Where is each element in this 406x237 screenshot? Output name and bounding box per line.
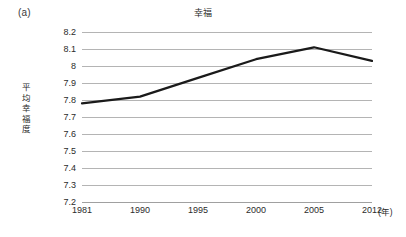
x-tick-label: 2000	[246, 205, 266, 215]
x-tick-label: 1995	[188, 205, 208, 215]
chart-title: 幸福	[0, 6, 406, 19]
y-tick-label: 7.9	[30, 78, 76, 88]
y-tick-label: 7.8	[30, 95, 76, 105]
plot-area	[82, 32, 372, 202]
y-tick-label: 7.6	[30, 129, 76, 139]
y-tick-label: 7.2	[30, 197, 76, 207]
y-tick-label: 8.1	[30, 44, 76, 54]
x-tick-label: 2005	[304, 205, 324, 215]
x-axis-unit-label: (年)	[378, 205, 393, 217]
y-tick-label: 7.3	[30, 180, 76, 190]
y-tick-label: 7.7	[30, 112, 76, 122]
gridline	[82, 202, 372, 203]
x-tick-label: 1990	[130, 205, 150, 215]
x-tick-label: 1981	[72, 205, 92, 215]
chart-figure: (a) 幸福 平均幸福度 8.28.187.97.87.77.67.57.47.…	[0, 0, 406, 237]
y-tick-label: 7.5	[30, 146, 76, 156]
line-series	[82, 32, 372, 202]
y-tick-label: 8.2	[30, 27, 76, 37]
y-axis-tick-labels: 8.28.187.97.87.77.67.57.47.37.2	[26, 32, 76, 202]
y-tick-label: 8	[30, 61, 76, 71]
x-axis-tick-labels: 198119901995200020052012	[82, 205, 372, 221]
y-tick-label: 7.4	[30, 163, 76, 173]
series-polyline	[82, 47, 372, 103]
